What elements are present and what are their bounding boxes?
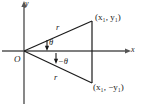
point-label-upper: (x₁, y₁) [95,13,121,22]
point-label-lower: (x₁, −y₁) [93,83,124,92]
angle-label-theta: θ [49,38,53,47]
origin-label: O [14,55,21,64]
radius-label-upper: r [56,23,59,32]
geometry-figure: y x O (x₁, y₁) (x₁, −y₁) r r θ −θ [0,0,144,109]
x-axis-label: x [131,46,135,54]
y-axis-label: y [25,0,29,8]
angle-label-negative-theta: −θ [58,57,68,66]
diagram-canvas [0,0,144,109]
radius-label-lower: r [54,73,57,82]
